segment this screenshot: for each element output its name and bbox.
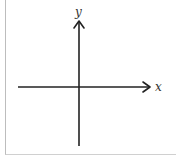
y-axis xyxy=(74,21,84,146)
x-axis xyxy=(18,82,150,92)
coordinate-axes: x y xyxy=(0,0,176,156)
x-axis-label: x xyxy=(155,80,162,94)
y-axis-label: y xyxy=(74,5,82,19)
